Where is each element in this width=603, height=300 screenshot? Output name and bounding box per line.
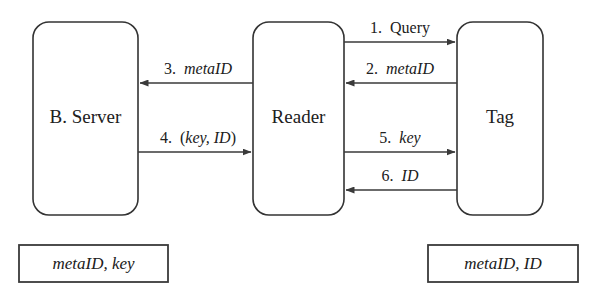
node-tag[interactable]: Tag (457, 22, 543, 215)
message-2-label: 2. metaID (366, 60, 434, 77)
message-6-label: 6. ID (382, 167, 419, 184)
message-1-query[interactable]: 1. Query (344, 19, 455, 42)
reader-label: Reader (272, 106, 326, 127)
message-4-step: 4. (160, 129, 172, 146)
message-2-step: 2. (366, 60, 378, 77)
message-2-metaid[interactable]: 2. metaID (346, 60, 457, 83)
message-3-step: 3. (164, 60, 176, 77)
message-4-text: key, ID (185, 129, 231, 147)
server-store-label: metaID, key (52, 254, 135, 273)
store-server-database[interactable]: metaID, key (19, 245, 168, 282)
message-1-label: 1. Query (370, 19, 430, 37)
message-3-metaid[interactable]: 3. metaID (140, 60, 253, 83)
message-4-close-paren: ) (231, 129, 236, 147)
node-backend-server[interactable]: B. Server (33, 22, 138, 215)
message-6-id[interactable]: 6. ID (346, 167, 457, 190)
message-4-key-id[interactable]: 4. (key, ID) (138, 129, 251, 152)
node-reader[interactable]: Reader (253, 22, 344, 215)
message-1-text: Query (390, 19, 430, 37)
message-5-step: 5. (379, 129, 391, 146)
message-5-text: key (399, 129, 421, 147)
message-2-text: metaID (386, 60, 434, 77)
message-4-label: 4. (key, ID) (160, 129, 236, 147)
message-3-text: metaID (184, 60, 232, 77)
message-3-label: 3. metaID (164, 60, 232, 77)
diagram-canvas: B. Server Reader Tag 1. Query 2. metaID (0, 0, 603, 300)
message-6-text: ID (401, 167, 419, 184)
message-1-step: 1. (370, 19, 382, 36)
backend-server-label: B. Server (50, 106, 122, 127)
protocol-flow-diagram: B. Server Reader Tag 1. Query 2. metaID (0, 0, 603, 300)
message-5-label: 5. key (379, 129, 421, 147)
store-tag-memory[interactable]: metaID, ID (428, 245, 578, 282)
message-5-key[interactable]: 5. key (344, 129, 455, 152)
tag-store-label: metaID, ID (464, 254, 542, 273)
message-6-step: 6. (382, 167, 394, 184)
tag-label: Tag (486, 106, 515, 127)
